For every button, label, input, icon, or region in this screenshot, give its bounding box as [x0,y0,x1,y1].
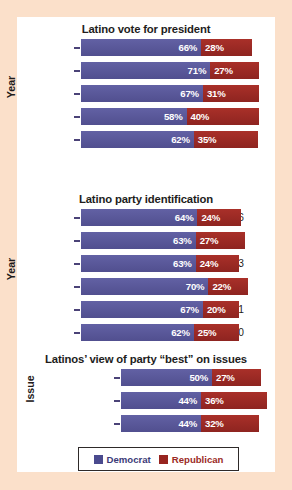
stacked-bar: 50%27% [121,369,261,386]
axis-tick [74,47,80,49]
stacked-bar: 44%32% [121,415,259,432]
bar-segment-democrat: 63% [81,232,196,249]
axis-tick [74,217,80,219]
bar-value-republican: 32% [205,418,224,429]
bar-value-republican: 27% [216,372,235,383]
bar-value-republican: 20% [207,304,226,315]
bar-segment-democrat: 62% [81,131,194,148]
bar-segment-republican: 28% [201,39,252,56]
stacked-bar: 64%24% [81,209,241,226]
bar-segment-republican: 27% [196,232,245,249]
bar-value-republican: 27% [200,235,219,246]
infographic-panel: Latino vote for president Year 201666%28… [17,17,275,472]
stacked-bar: 70%22% [81,278,248,295]
chart-latinos-view-of-party-best-on-issues: Latinos’ view of party “best” on issues … [17,353,275,438]
axis-tick [74,309,80,311]
bar-segment-republican: 27% [210,62,259,79]
bar-segment-democrat: 50% [121,369,212,386]
bar-value-democrat: 70% [186,281,205,292]
bar-segment-republican: 25% [194,324,240,341]
chart-row: 201463%27% [17,232,275,249]
chart-row: 201270%22% [17,278,275,295]
chart-row: Immigration50%27% [17,369,275,386]
bar-value-republican: 25% [198,327,217,338]
chart-row: 200062%35% [17,131,275,148]
stacked-bar: 44%36% [121,392,267,409]
stacked-bar: 63%24% [81,255,239,272]
y-axis-label: Year [5,76,17,98]
bar-value-republican: 22% [212,281,231,292]
bar-segment-democrat: 64% [81,209,197,226]
bar-value-democrat: 63% [173,258,192,269]
bar-value-democrat: 67% [180,88,199,99]
axis-tick [74,332,80,334]
axis-tick [114,423,120,425]
chart-title: Latinos’ view of party “best” on issues [17,353,275,365]
axis-tick [114,377,120,379]
legend-label-democrat: Democrat [107,454,151,465]
bar-segment-republican: 40% [187,108,260,125]
bar-segment-democrat: 67% [81,85,203,102]
bar-value-democrat: 71% [188,65,207,76]
chart-row: 201062%25% [17,324,275,341]
bar-segment-republican: 32% [201,415,259,432]
democrat-swatch-icon [94,455,103,464]
y-axis-label: Year [5,258,17,280]
legend-label-republican: Republican [172,454,224,465]
bar-value-democrat: 44% [178,418,197,429]
chart-row: Foreign policy44%32% [17,415,275,432]
bar-value-democrat: 62% [171,327,190,338]
bar-value-republican: 36% [205,395,224,406]
chart-latino-party-identification: Latino party identification Year 201664%… [17,193,275,347]
bar-value-democrat: 62% [171,134,190,145]
bar-segment-democrat: 44% [121,392,201,409]
chart-title: Latino vote for president [17,23,275,35]
bar-value-democrat: 64% [175,212,194,223]
stacked-bar: 62%25% [81,324,239,341]
bar-segment-democrat: 62% [81,324,194,341]
chart-row: 201666%28% [17,39,275,56]
plot-area: 201666%28%201271%27%200867%31%200458%40%… [17,39,275,148]
axis-tick [74,93,80,95]
bar-segment-republican: 22% [208,278,248,295]
bar-value-democrat: 44% [178,395,197,406]
chart-row: 201167%20% [17,301,275,318]
bar-segment-democrat: 63% [81,255,196,272]
axis-tick [74,70,80,72]
bar-segment-republican: 24% [196,255,240,272]
legend-item-democrat: Democrat [94,454,151,465]
bar-segment-democrat: 44% [121,415,201,432]
bar-value-republican: 24% [201,212,220,223]
stacked-bar: 63%27% [81,232,245,249]
bar-value-democrat: 58% [164,111,183,122]
bar-value-republican: 27% [214,65,233,76]
chart-latino-vote-for-president: Latino vote for president Year 201666%28… [17,23,275,154]
bar-segment-democrat: 70% [81,278,208,295]
bar-value-republican: 28% [205,42,224,53]
stacked-bar: 67%31% [81,85,259,102]
plot-area: Immigration50%27%Economy44%36%Foreign po… [17,369,275,432]
bar-segment-republican: 27% [212,369,261,386]
bar-value-democrat: 66% [179,42,198,53]
bar-segment-democrat: 66% [81,39,201,56]
bar-segment-republican: 20% [203,301,239,318]
bar-value-republican: 31% [207,88,226,99]
axis-tick [74,263,80,265]
bar-value-democrat: 67% [180,304,199,315]
bar-segment-republican: 36% [201,392,267,409]
bar-segment-republican: 31% [203,85,259,102]
republican-swatch-icon [159,455,168,464]
bar-segment-democrat: 67% [81,301,203,318]
axis-tick [74,286,80,288]
bar-value-republican: 40% [191,111,210,122]
chart-row: 201271%27% [17,62,275,79]
axis-tick [74,139,80,141]
chart-title: Latino party identification [17,193,275,205]
axis-tick [114,400,120,402]
plot-area: 201664%24%201463%27%201363%24%201270%22%… [17,209,275,341]
stacked-bar: 67%20% [81,301,239,318]
stacked-bar: 58%40% [81,108,259,125]
stacked-bar: 66%28% [81,39,252,56]
bar-value-democrat: 50% [189,372,208,383]
bar-value-democrat: 63% [173,235,192,246]
